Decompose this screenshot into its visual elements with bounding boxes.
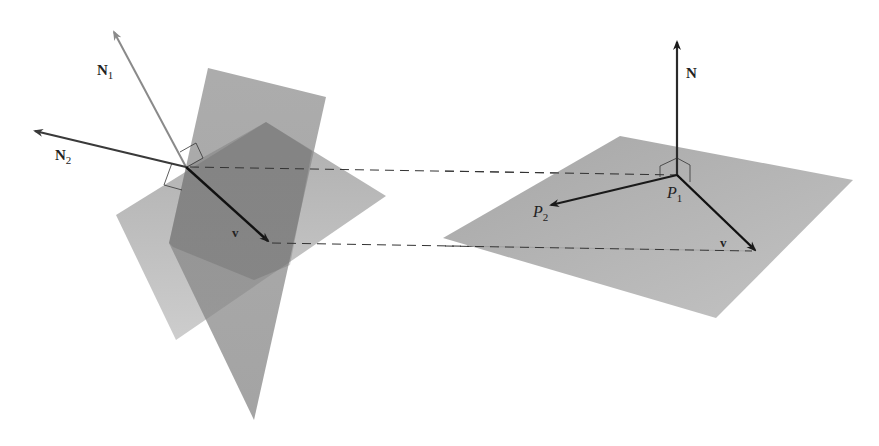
label-v-right: v — [720, 235, 727, 250]
planes-normal-vectors-diagram: N1 N2 v N P1 P2 v — [0, 0, 879, 446]
label-n2: N2 — [55, 147, 71, 166]
plane-right — [443, 136, 853, 318]
label-v-left: v — [232, 225, 239, 240]
right-plane-diagram: N P1 P2 v — [443, 42, 853, 318]
left-two-planes: N1 N2 v — [35, 32, 386, 420]
vector-n1-arrow — [114, 32, 186, 167]
label-n: N — [686, 65, 697, 81]
label-n1: N1 — [97, 62, 113, 81]
